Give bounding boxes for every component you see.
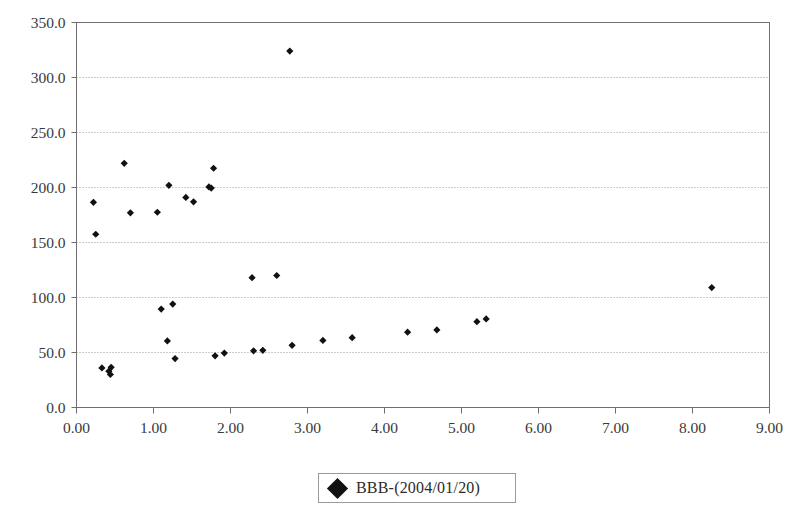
y-tick-label: 300.0 <box>31 69 66 86</box>
y-tick-label: 200.0 <box>31 179 66 196</box>
y-axis-tick-labels: 0.050.0100.0150.0200.0250.0300.0350.0 <box>31 14 66 416</box>
plot-border <box>77 23 770 408</box>
x-tick-label: 5.00 <box>448 419 475 436</box>
data-point <box>319 337 326 344</box>
data-point <box>248 274 255 281</box>
y-tick-label: 350.0 <box>31 14 66 31</box>
data-point <box>127 209 134 216</box>
data-point <box>286 48 293 55</box>
data-point <box>210 165 217 172</box>
chart-legend: BBB-(2004/01/20) <box>318 473 516 503</box>
y-tick-label: 100.0 <box>31 289 66 306</box>
data-point <box>171 355 178 362</box>
data-point <box>433 326 440 333</box>
data-point <box>250 347 257 354</box>
data-point <box>165 182 172 189</box>
x-tick-label: 3.00 <box>294 419 321 436</box>
plot-canvas: 0.050.0100.0150.0200.0250.0300.0350.0 0.… <box>0 0 804 470</box>
y-tick-label: 0.0 <box>46 399 66 416</box>
data-point <box>90 199 97 206</box>
diamond-marker-icon <box>327 477 348 498</box>
y-tick-label: 150.0 <box>31 234 66 251</box>
y-tick-label: 250.0 <box>31 124 66 141</box>
data-point <box>349 334 356 341</box>
x-tick-label: 7.00 <box>602 419 629 436</box>
data-point <box>182 194 189 201</box>
x-axis-tick-labels: 0.001.002.003.004.005.006.007.008.009.00 <box>63 419 783 436</box>
data-point <box>289 342 296 349</box>
x-tick-label: 1.00 <box>140 419 167 436</box>
data-points <box>90 48 716 379</box>
x-axis-ticks <box>77 408 770 414</box>
data-point <box>92 231 99 238</box>
x-tick-label: 0.00 <box>63 419 90 436</box>
data-point <box>473 318 480 325</box>
data-point <box>121 160 128 167</box>
data-point <box>169 301 176 308</box>
x-tick-label: 9.00 <box>756 419 783 436</box>
y-axis-ticks <box>72 23 77 408</box>
data-point <box>483 315 490 322</box>
gridlines <box>77 78 770 353</box>
x-tick-label: 4.00 <box>371 419 398 436</box>
data-point <box>212 352 219 359</box>
data-point <box>158 305 165 312</box>
data-point <box>273 272 280 279</box>
data-point <box>190 198 197 205</box>
data-point <box>164 337 171 344</box>
legend-label: BBB-(2004/01/20) <box>356 479 480 497</box>
x-tick-label: 2.00 <box>217 419 244 436</box>
data-point <box>221 349 228 356</box>
y-tick-label: 50.0 <box>38 344 65 361</box>
data-point <box>154 209 161 216</box>
data-point <box>98 364 105 371</box>
x-tick-label: 8.00 <box>679 419 706 436</box>
data-point <box>404 329 411 336</box>
x-tick-label: 6.00 <box>525 419 552 436</box>
scatter-chart: 0.050.0100.0150.0200.0250.0300.0350.0 0.… <box>0 0 804 527</box>
data-point <box>708 284 715 291</box>
